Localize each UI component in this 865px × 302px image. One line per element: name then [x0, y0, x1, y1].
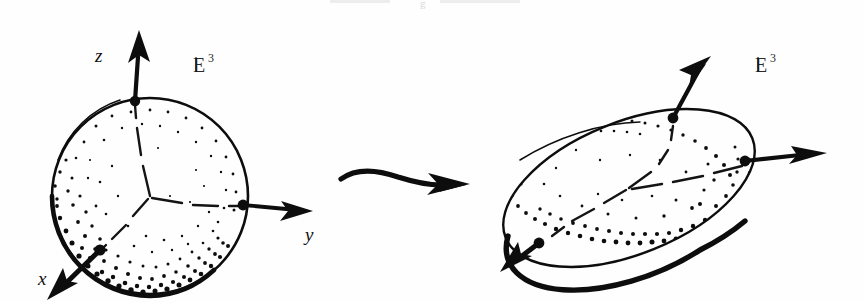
axis-label-y: y [303, 224, 314, 245]
deformation-arrow [341, 171, 470, 195]
ellipsoid-axis-arrow-y [745, 146, 827, 164]
axis-dash-z [135, 105, 150, 196]
sphere-axis-arrow-z [128, 30, 150, 101]
axis-dash-y [152, 198, 242, 206]
ellipsoid-axis-dash-z [629, 126, 673, 188]
ellipsoid-axis-dash-y [632, 166, 742, 189]
space-label-left-exponent: 3 [208, 51, 214, 65]
ghost-caption-text: g [420, 0, 426, 9]
sphere-axis-nodes [94, 96, 248, 256]
sphere-axis-arrow-y [243, 201, 313, 221]
space-label-right-exponent: 3 [770, 51, 776, 65]
ellipsoid-axis-nodes [534, 113, 751, 249]
space-label-right-base: E [755, 54, 767, 76]
ghost-caption: g [330, 0, 520, 9]
space-label-left-base: E [193, 54, 205, 76]
ellipsoid-axis-dash-x [552, 190, 626, 236]
space-label-right: E 3 [755, 51, 776, 76]
axis-label-x: x [37, 268, 47, 289]
ellipsoid-stipple [506, 119, 752, 246]
figure-root: g [0, 0, 865, 302]
figure-illustration: g [0, 0, 865, 302]
space-label-left: E 3 [193, 51, 214, 76]
ellipsoid-panel: E 3 [481, 51, 827, 299]
axis-dash-x [100, 199, 148, 251]
axis-label-z: z [94, 45, 103, 66]
sphere-panel: z y x E 3 [37, 30, 314, 300]
